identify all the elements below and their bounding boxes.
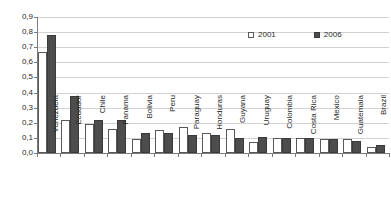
x-tick-label-wrap: Guyana bbox=[239, 95, 247, 159]
x-tick-mark bbox=[131, 153, 132, 157]
x-tick-mark bbox=[84, 153, 85, 157]
bar-2001 bbox=[108, 129, 117, 153]
x-tick-label: Panama bbox=[122, 95, 130, 159]
x-tick-label-wrap: Uruguay bbox=[263, 95, 271, 159]
x-tick-mark bbox=[342, 153, 343, 157]
x-tick-label-wrap: Paraguay bbox=[193, 95, 201, 159]
x-tick-label-wrap: Mexico bbox=[333, 95, 341, 159]
y-tick-label: 0,8 bbox=[3, 28, 33, 36]
x-tick-label-wrap: Panama bbox=[122, 95, 130, 159]
bar-2001 bbox=[132, 139, 141, 153]
bar-2001 bbox=[367, 147, 376, 153]
x-tick-mark bbox=[366, 153, 367, 157]
x-tick-mark bbox=[201, 153, 202, 157]
x-tick-label: Honduras bbox=[216, 95, 224, 159]
bar-2001 bbox=[226, 129, 235, 153]
x-tick-label-wrap: Guatemala bbox=[357, 95, 365, 159]
x-tick-mark bbox=[178, 153, 179, 157]
bar-2001 bbox=[273, 138, 282, 153]
y-tick-label: 0,3 bbox=[3, 104, 33, 112]
y-tick-label: 0,7 bbox=[3, 43, 33, 51]
bar-2001 bbox=[343, 139, 352, 153]
x-tick-mark bbox=[154, 153, 155, 157]
x-tick-label-wrap: Costa Rica bbox=[310, 95, 318, 159]
x-tick-label: Peru bbox=[169, 95, 177, 159]
bar-2001 bbox=[249, 142, 258, 153]
x-tick-label: Ecuador bbox=[75, 95, 83, 159]
legend-label-2006: 2006 bbox=[324, 30, 342, 39]
x-tick-label: Chile bbox=[99, 95, 107, 159]
legend-label-2001: 2001 bbox=[258, 30, 276, 39]
x-tick-mark bbox=[319, 153, 320, 157]
x-tick-label: Brazil bbox=[380, 95, 388, 159]
bar-2001 bbox=[61, 120, 70, 153]
x-tick-label-wrap: Colombia bbox=[286, 95, 294, 159]
y-tick-label: 0,4 bbox=[3, 89, 33, 97]
x-tick-label-wrap: Ecuador bbox=[75, 95, 83, 159]
bar-2001 bbox=[179, 127, 188, 153]
x-tick-label: Colombia bbox=[286, 95, 294, 159]
y-tick-label: 0,9 bbox=[3, 13, 33, 21]
chart-legend: 2001 2006 bbox=[248, 30, 342, 39]
legend-item-2006[interactable]: 2006 bbox=[314, 30, 342, 39]
x-tick-label: Paraguay bbox=[193, 95, 201, 159]
x-tick-label-wrap: Brazil bbox=[380, 95, 388, 159]
y-tick-label: 0,0 bbox=[3, 149, 33, 157]
y-tick-label: 0,1 bbox=[3, 134, 33, 142]
filled-square-marker-icon bbox=[314, 32, 320, 38]
x-tick-mark bbox=[225, 153, 226, 157]
x-tick-mark bbox=[107, 153, 108, 157]
x-tick-label: Mexico bbox=[333, 95, 341, 159]
x-tick-mark bbox=[295, 153, 296, 157]
y-tick-label: 0,2 bbox=[3, 119, 33, 127]
bar-chart: 0,90,80,70,60,50,40,30,20,10,0 Venezuela… bbox=[0, 0, 391, 219]
x-tick-label: Venezuela bbox=[52, 95, 60, 159]
bar-2001 bbox=[296, 138, 305, 153]
x-tick-label-wrap: Bolivia bbox=[146, 95, 154, 159]
y-axis-labels: 0,90,80,70,60,50,40,30,20,10,0 bbox=[0, 0, 33, 219]
x-tick-mark bbox=[60, 153, 61, 157]
bar-2001 bbox=[85, 124, 94, 153]
bar-2001 bbox=[202, 133, 211, 153]
y-tick-label: 0,5 bbox=[3, 73, 33, 81]
x-tick-mark bbox=[37, 153, 38, 157]
bar-2001 bbox=[38, 52, 47, 153]
x-tick-label-wrap: Honduras bbox=[216, 95, 224, 159]
x-tick-label: Bolivia bbox=[146, 95, 154, 159]
x-tick-mark bbox=[272, 153, 273, 157]
x-tick-mark bbox=[248, 153, 249, 157]
x-tick-label: Costa Rica bbox=[310, 95, 318, 159]
bar-2001 bbox=[155, 130, 164, 153]
legend-item-2001[interactable]: 2001 bbox=[248, 30, 276, 39]
x-tick-label-wrap: Chile bbox=[99, 95, 107, 159]
x-tick-label: Guyana bbox=[239, 95, 247, 159]
x-tick-label: Uruguay bbox=[263, 95, 271, 159]
x-tick-mark bbox=[389, 153, 390, 157]
open-square-marker-icon bbox=[248, 32, 254, 38]
x-tick-label-wrap: Venezuela bbox=[52, 95, 60, 159]
bar-2001 bbox=[320, 139, 329, 153]
y-tick-label: 0,6 bbox=[3, 58, 33, 66]
x-tick-label-wrap: Peru bbox=[169, 95, 177, 159]
x-tick-label: Guatemala bbox=[357, 95, 365, 159]
